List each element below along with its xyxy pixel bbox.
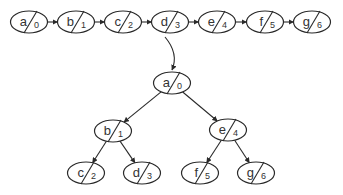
node-f: f5 (182, 162, 219, 184)
tree-edge-arrow (207, 140, 222, 162)
node-c: c2 (68, 162, 105, 184)
node-index: 5 (270, 20, 275, 30)
node-index: 6 (261, 171, 266, 181)
node-f: f5 (247, 11, 284, 33)
binary-tree: a0b1e4c2d3f5g6 (68, 72, 275, 184)
node-label: g (247, 165, 254, 180)
node-label: e (219, 122, 226, 137)
node-ellipse (124, 162, 161, 184)
node-index: 1 (118, 129, 123, 139)
node-a: a0 (11, 11, 48, 33)
node-index: 4 (222, 20, 227, 30)
tree-edge-arrow (183, 92, 218, 121)
node-ellipse (95, 120, 132, 142)
node-ellipse (68, 162, 105, 184)
node-d: d3 (152, 11, 189, 33)
node-index: 3 (147, 171, 152, 181)
node-label: b (67, 14, 74, 29)
node-e: e4 (210, 119, 247, 141)
node-label: a (163, 75, 171, 90)
node-ellipse (154, 72, 191, 94)
node-b: b1 (95, 120, 132, 142)
tree-edge-arrow (120, 141, 135, 163)
node-e: e4 (199, 11, 236, 33)
linked-list: a0b1c2d3e4f5g6 (11, 11, 331, 33)
tree-edge-arrow (124, 92, 161, 122)
node-label: e (208, 14, 215, 29)
node-label: c (115, 14, 122, 29)
node-ellipse (58, 11, 95, 33)
node-ellipse (238, 162, 275, 184)
node-label: g (303, 14, 310, 29)
node-index: 1 (81, 20, 86, 30)
node-index: 0 (177, 81, 182, 91)
tree-edge-arrow (93, 141, 107, 162)
node-index: 4 (233, 128, 238, 138)
diagram-canvas: a0b1c2d3e4f5g6 a0b1e4c2d3f5g6 (0, 0, 343, 195)
node-ellipse (11, 11, 48, 33)
transform-arrow (165, 37, 174, 70)
node-ellipse (210, 119, 247, 141)
node-label: d (161, 14, 168, 29)
node-index: 3 (175, 20, 180, 30)
node-ellipse (152, 11, 189, 33)
node-label: d (133, 165, 140, 180)
node-label: a (20, 14, 28, 29)
node-ellipse (105, 11, 142, 33)
node-index: 6 (317, 20, 322, 30)
node-label: b (104, 123, 111, 138)
node-label: f (194, 165, 198, 180)
node-ellipse (182, 162, 219, 184)
node-ellipse (294, 11, 331, 33)
node-g: g6 (294, 11, 331, 33)
node-index: 0 (34, 20, 39, 30)
node-label: c (78, 165, 85, 180)
node-g: g6 (238, 162, 275, 184)
node-a: a0 (154, 72, 191, 94)
node-index: 5 (205, 171, 210, 181)
tree-edge-arrow (235, 140, 250, 162)
node-index: 2 (91, 171, 96, 181)
node-c: c2 (105, 11, 142, 33)
node-ellipse (247, 11, 284, 33)
node-label: f (259, 14, 263, 29)
node-b: b1 (58, 11, 95, 33)
node-index: 2 (128, 20, 133, 30)
node-ellipse (199, 11, 236, 33)
node-d: d3 (124, 162, 161, 184)
